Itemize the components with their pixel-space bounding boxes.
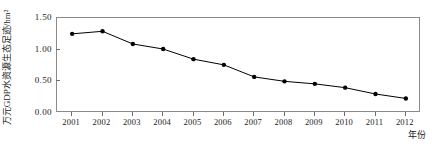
x-tick-mark bbox=[223, 112, 224, 116]
x-tick-mark bbox=[284, 112, 285, 116]
data-point-marker: 2011: 0.3 bbox=[373, 92, 377, 96]
x-tick-mark bbox=[193, 112, 194, 116]
y-tick-mark bbox=[56, 49, 60, 50]
x-axis-title: 年份 bbox=[408, 131, 426, 140]
x-tick-label: 2012 bbox=[385, 118, 425, 127]
series-line bbox=[72, 31, 406, 98]
x-tick-mark bbox=[344, 112, 345, 116]
y-tick-label: 0.50 bbox=[22, 76, 52, 85]
data-point-marker: 2009: 0.46 bbox=[313, 82, 317, 86]
data-point-marker: 2005: 0.85 bbox=[191, 57, 195, 61]
chart-figure: 万元GDP水资源生态足迹/hm² 0.000.501.001.50 2001: … bbox=[0, 0, 434, 154]
y-tick-label: 1.50 bbox=[22, 13, 52, 22]
data-point-marker: 2004: 1.01 bbox=[161, 47, 165, 51]
y-tick-label: 0.00 bbox=[22, 108, 52, 117]
x-tick-mark bbox=[314, 112, 315, 116]
data-point-marker: 2008: 0.5 bbox=[282, 79, 286, 83]
data-point-marker: 2003: 1.09 bbox=[131, 42, 135, 46]
y-axis-tick-labels: 0.000.501.001.50 bbox=[18, 0, 52, 154]
x-tick-mark bbox=[405, 112, 406, 116]
data-point-marker: 2001: 1.25 bbox=[70, 32, 74, 36]
plot-area: 2001: 1.252002: 1.292003: 1.092004: 1.01… bbox=[56, 17, 420, 112]
data-point-marker: 2010: 0.4 bbox=[343, 85, 347, 89]
x-tick-mark bbox=[102, 112, 103, 116]
x-tick-mark bbox=[132, 112, 133, 116]
y-tick-mark bbox=[56, 80, 60, 81]
y-axis-title-text: 万元GDP水资源生态足迹/hm² bbox=[4, 9, 13, 125]
series-canvas: 2001: 1.252002: 1.292003: 1.092004: 1.01… bbox=[57, 18, 421, 113]
x-tick-mark bbox=[253, 112, 254, 116]
data-point-marker: 2012: 0.23 bbox=[404, 96, 408, 100]
x-tick-mark bbox=[375, 112, 376, 116]
y-axis-title: 万元GDP水资源生态足迹/hm² bbox=[0, 0, 16, 134]
x-tick-mark bbox=[71, 112, 72, 116]
y-tick-label: 1.00 bbox=[22, 44, 52, 53]
x-tick-mark bbox=[162, 112, 163, 116]
data-point-marker: 2006: 0.76 bbox=[222, 63, 226, 67]
data-point-marker: 2002: 1.29 bbox=[100, 29, 104, 33]
data-point-marker: 2007: 0.57 bbox=[252, 75, 256, 79]
